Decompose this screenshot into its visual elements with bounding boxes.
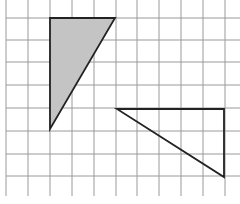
grid-diagram xyxy=(0,0,240,204)
grid-lines xyxy=(6,0,240,196)
outline-triangle xyxy=(117,109,224,177)
shaded-triangle xyxy=(50,18,115,129)
